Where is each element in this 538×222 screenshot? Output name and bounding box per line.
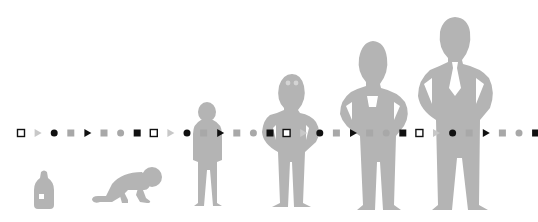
black-square-marker-icon bbox=[267, 130, 274, 137]
adult-figure bbox=[418, 17, 493, 210]
growth-svg bbox=[0, 0, 538, 222]
gray-square-marker-icon bbox=[466, 130, 473, 137]
black-square-marker-icon bbox=[532, 130, 538, 137]
crawling-baby-figure bbox=[92, 167, 162, 203]
hollow-square-marker-icon bbox=[283, 130, 290, 137]
black-circle-marker-icon bbox=[449, 130, 456, 137]
gray-circle-marker-icon bbox=[516, 130, 523, 137]
hollow-square-marker-icon bbox=[416, 130, 423, 137]
gray-triangle-marker-icon bbox=[167, 129, 174, 137]
black-square-marker-icon bbox=[399, 130, 406, 137]
gray-square-marker-icon bbox=[333, 130, 340, 137]
gray-square-marker-icon bbox=[67, 130, 74, 137]
black-triangle-marker-icon bbox=[84, 129, 91, 137]
gray-triangle-marker-icon bbox=[35, 129, 42, 137]
gray-square-marker-icon bbox=[366, 130, 373, 137]
gray-circle-marker-icon bbox=[117, 130, 124, 137]
growth-illustration: Human growth stages timeline bbox=[0, 0, 538, 222]
gray-square-marker-icon bbox=[101, 130, 108, 137]
gray-square-marker-icon bbox=[499, 130, 506, 137]
gray-circle-marker-icon bbox=[383, 130, 390, 137]
black-circle-marker-icon bbox=[51, 130, 58, 137]
black-circle-marker-icon bbox=[316, 130, 323, 137]
bottle-figure bbox=[34, 171, 54, 210]
black-triangle-marker-icon bbox=[483, 129, 490, 137]
hollow-square-marker-icon bbox=[150, 130, 157, 137]
gray-square-marker-icon bbox=[200, 130, 207, 137]
black-circle-marker-icon bbox=[184, 130, 191, 137]
hollow-square-marker-icon bbox=[18, 130, 25, 137]
bottle-label-icon bbox=[39, 194, 44, 199]
gray-circle-marker-icon bbox=[250, 130, 257, 137]
boy-figure bbox=[262, 74, 319, 207]
black-square-marker-icon bbox=[134, 130, 141, 137]
child-figure bbox=[193, 102, 222, 206]
teen-figure bbox=[340, 41, 408, 210]
gray-square-marker-icon bbox=[233, 130, 240, 137]
